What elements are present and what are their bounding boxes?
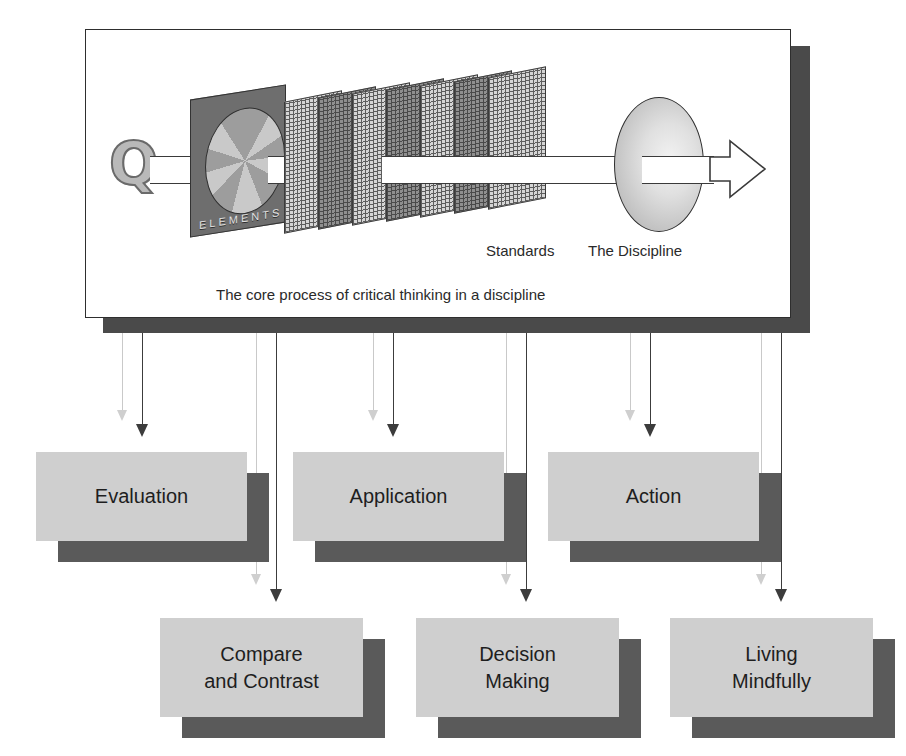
- standards-screen-7: [488, 66, 546, 209]
- box-living-mindfully-label: Living Mindfully: [732, 641, 811, 695]
- box-application-label: Application: [350, 483, 448, 510]
- label-standards: Standards: [486, 242, 554, 259]
- box-evaluation[interactable]: Evaluation: [36, 452, 268, 562]
- process-arrow-head: [708, 138, 768, 200]
- box-living-mindfully-line2: Mindfully: [732, 670, 811, 692]
- label-discipline: The Discipline: [588, 242, 682, 259]
- top-panel-caption: The core process of critical thinking in…: [216, 286, 545, 303]
- box-application-face[interactable]: Application: [293, 452, 504, 541]
- box-action-label: Action: [626, 483, 682, 510]
- process-arrow-shaft-3: [382, 156, 644, 184]
- process-arrow-shaft-4: [642, 156, 714, 184]
- diagram-canvas: Q ELEMENTS Standards The Discipline: [0, 0, 906, 756]
- box-application[interactable]: Application: [293, 452, 525, 562]
- box-decision-making[interactable]: Decision Making: [416, 618, 641, 738]
- box-evaluation-face[interactable]: Evaluation: [36, 452, 247, 541]
- box-decision-making-line2: Making: [485, 670, 549, 692]
- top-panel-frame: Q ELEMENTS Standards The Discipline: [85, 29, 791, 318]
- box-living-mindfully-face[interactable]: Living Mindfully: [670, 618, 873, 717]
- box-compare-contrast-line2: and Contrast: [204, 670, 319, 692]
- top-panel-shadow-bottom: [103, 316, 810, 333]
- box-compare-contrast[interactable]: Compare and Contrast: [160, 618, 385, 738]
- top-panel-shadow-right: [789, 46, 810, 333]
- box-evaluation-label: Evaluation: [95, 483, 188, 510]
- box-decision-making-face[interactable]: Decision Making: [416, 618, 619, 717]
- box-compare-contrast-line1: Compare: [220, 643, 302, 665]
- box-living-mindfully[interactable]: Living Mindfully: [670, 618, 895, 738]
- box-decision-making-label: Decision Making: [479, 641, 556, 695]
- box-compare-contrast-face[interactable]: Compare and Contrast: [160, 618, 363, 717]
- box-living-mindfully-line1: Living: [745, 643, 797, 665]
- box-decision-making-line1: Decision: [479, 643, 556, 665]
- box-compare-contrast-label: Compare and Contrast: [204, 641, 319, 695]
- box-action[interactable]: Action: [548, 452, 780, 562]
- box-action-face[interactable]: Action: [548, 452, 759, 541]
